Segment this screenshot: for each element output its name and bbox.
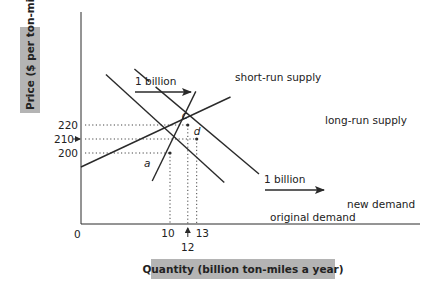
short-run-supply-curve [152, 91, 196, 181]
x-tick-label: 13 [196, 227, 209, 239]
new-demand-label: new demand [347, 198, 415, 210]
point-d-label: d [194, 125, 201, 137]
point-d-marker [195, 137, 198, 140]
x-tick-label: 10 [161, 227, 174, 239]
x-tick-label: 12 [181, 241, 194, 253]
point-a-label: a [144, 157, 150, 169]
point-c-marker [186, 123, 189, 126]
supply-demand-diagram: Price ($ per ton-mile) Quantity (billion… [0, 0, 437, 294]
new-demand-curve [156, 87, 259, 174]
dotted-guides [85, 125, 197, 224]
original-demand-label: original demand [270, 211, 356, 223]
point-c-label: c [182, 109, 188, 121]
shift-label-lower: 1 billion [264, 173, 305, 185]
shift-label-upper: 1 billion [135, 75, 176, 87]
original-demand-curve [106, 75, 224, 183]
short-run-supply-label: short-run supply [235, 71, 321, 83]
long-run-supply-label: long-run supply [325, 114, 407, 126]
y-axis-title: Price ($ per ton-mile) [24, 0, 36, 110]
origin-label: 0 [74, 228, 81, 240]
y-tick-label: 200 [58, 147, 78, 159]
point-a-marker [168, 151, 171, 154]
y-tick-label: 220 [58, 119, 78, 131]
y-tick-label: 210 [54, 133, 74, 145]
x-axis-title: Quantity (billion ton-miles a year) [142, 263, 343, 275]
